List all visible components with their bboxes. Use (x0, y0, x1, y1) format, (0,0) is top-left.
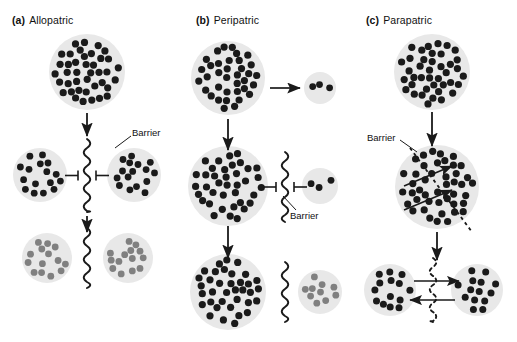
speciation-diagram (0, 0, 517, 342)
population-circles-group (13, 34, 503, 330)
